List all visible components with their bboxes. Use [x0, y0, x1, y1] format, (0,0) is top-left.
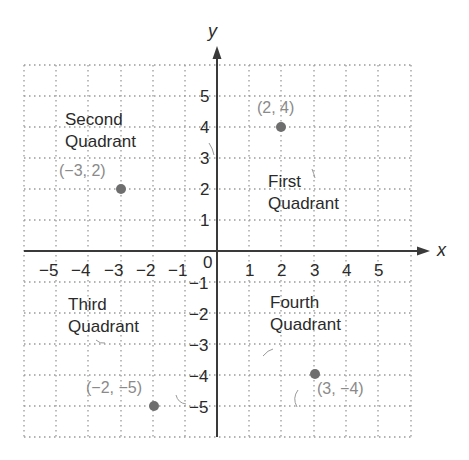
- x-tick-neg5: −5: [39, 262, 58, 279]
- x-tick-4: 4: [342, 262, 351, 279]
- axes: [24, 46, 430, 437]
- grid-and-axes: [0, 0, 469, 460]
- point-neg3-2: [116, 184, 126, 194]
- third-quadrant-line2: Quadrant: [68, 316, 139, 338]
- second-quadrant-label: Second Quadrant: [65, 109, 136, 153]
- x-tick-3: 3: [310, 262, 319, 279]
- point-2-4: [276, 122, 286, 132]
- y-tick-3: 3: [200, 150, 209, 167]
- y-tick-4: 4: [200, 119, 209, 136]
- first-quadrant-line1: First: [268, 171, 339, 193]
- y-tick-neg5: −5: [189, 399, 208, 416]
- x-tick-neg4: −4: [71, 262, 90, 279]
- y-tick-neg2: −2: [189, 306, 208, 323]
- y-axis-arrow-icon: [213, 46, 222, 59]
- coordinate-plane: y x 0 −5 −4 −3 −2 −1 1 2 3 4 5 5 4 3 2 1…: [0, 0, 469, 460]
- third-quadrant-label: Third Quadrant: [68, 294, 139, 338]
- x-tick-2: 2: [277, 262, 286, 279]
- third-quadrant-line1: Third: [68, 294, 139, 316]
- point-label-neg2-neg5: (−2, −5): [86, 380, 142, 396]
- point-neg2-neg5: [149, 401, 159, 411]
- y-tick-5: 5: [200, 88, 209, 105]
- x-tick-1: 1: [245, 262, 254, 279]
- y-tick-neg3: −3: [189, 337, 208, 354]
- point-label-2-4: (2, 4): [257, 100, 294, 116]
- x-tick-5: 5: [374, 262, 383, 279]
- x-tick-neg2: −2: [136, 262, 155, 279]
- y-tick-1: 1: [200, 212, 209, 229]
- fourth-quadrant-line2: Quadrant: [270, 314, 341, 336]
- point-3-neg4: [310, 369, 320, 379]
- point-label-3-neg4: (3, −4): [317, 381, 364, 397]
- first-quadrant-label: First Quadrant: [268, 171, 339, 215]
- y-axis-label: y: [208, 22, 217, 40]
- y-tick-neg4: −4: [189, 368, 208, 385]
- first-quadrant-line2: Quadrant: [268, 193, 339, 215]
- x-axis-label: x: [437, 241, 446, 259]
- origin-label: 0: [203, 254, 212, 271]
- x-tick-neg3: −3: [104, 262, 123, 279]
- y-tick-neg1: −1: [189, 275, 208, 292]
- point-label-neg3-2: (−3, 2): [59, 163, 106, 179]
- second-quadrant-line1: Second: [65, 109, 136, 131]
- x-axis-arrow-icon: [417, 247, 430, 256]
- second-quadrant-line2: Quadrant: [65, 131, 136, 153]
- x-tick-neg1: −1: [168, 262, 187, 279]
- fourth-quadrant-label: Fourth Quadrant: [270, 292, 341, 336]
- fourth-quadrant-line1: Fourth: [270, 292, 341, 314]
- y-tick-2: 2: [200, 181, 209, 198]
